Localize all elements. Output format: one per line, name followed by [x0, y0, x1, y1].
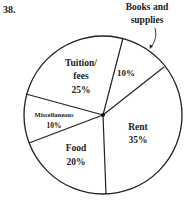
pie-chart: 38. Books and supplies 10% Rent 35% Food… [0, 0, 191, 202]
slice-books-value: 10% [117, 68, 135, 78]
slice-misc-label: Miscellaneous [35, 111, 74, 118]
slice-food-label: Food [66, 143, 87, 153]
callout-label-line2: supplies [131, 15, 164, 25]
problem-number: 38. [3, 4, 16, 15]
slice-misc-value: 10% [47, 121, 62, 130]
slice-tuition-label-1: Tuition/ [65, 58, 97, 68]
callout-label-line1: Books and [126, 2, 169, 12]
slice-tuition-label-2: fees [73, 71, 89, 81]
slice-rent-label: Rent [128, 122, 148, 132]
center-dot [101, 113, 105, 117]
callout-arrow [151, 28, 156, 47]
slice-tuition-value: 25% [72, 85, 91, 95]
slice-food-value: 20% [67, 157, 86, 167]
slice-rent-value: 35% [129, 135, 148, 145]
